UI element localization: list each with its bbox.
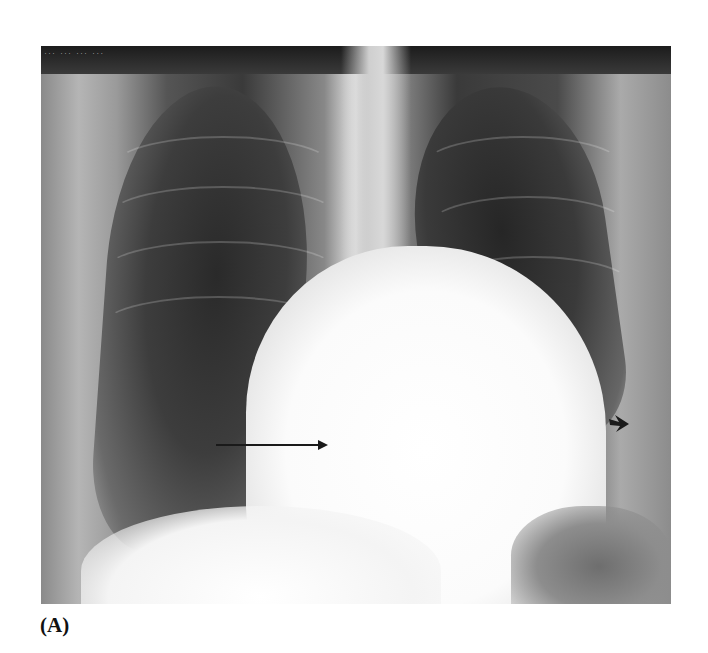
- arrowhead-icon: [607, 413, 631, 433]
- rib: [421, 136, 625, 200]
- chest-xray-image: ... ... ... ...: [41, 46, 671, 604]
- film-overlay-text: ... ... ... ...: [44, 49, 104, 55]
- gastric-bubble: [511, 506, 671, 604]
- panel-label: (A): [40, 613, 69, 638]
- straight-arrow-icon: [216, 444, 320, 446]
